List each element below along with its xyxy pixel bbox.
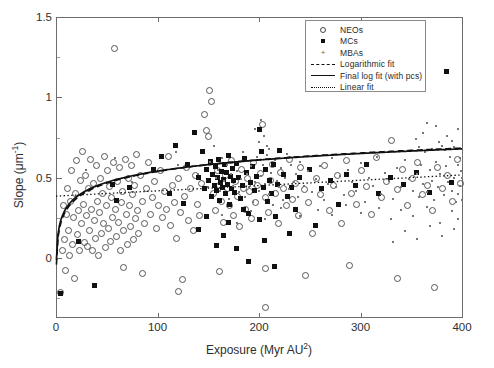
legend-label: MCs bbox=[340, 36, 358, 46]
chart-legend: NEOs MCs + MBAs Logarithmic fit Final lo… bbox=[305, 20, 426, 92]
dotted-line-icon bbox=[306, 82, 340, 93]
legend-item-final-log-fit: Final log fit (with pcs) bbox=[306, 70, 425, 81]
legend-item-linear-fit: Linear fit bbox=[306, 82, 425, 93]
legend-item-mbas: + MBAs bbox=[306, 47, 425, 58]
legend-item-logarithmic-fit: Logarithmic fit bbox=[306, 59, 425, 70]
linear-fit-curve bbox=[56, 175, 462, 196]
logarithmic-fit-curve bbox=[56, 148, 462, 265]
x-axis-label: Exposure (Myr AU2) bbox=[206, 341, 312, 357]
small-plus-icon: + bbox=[306, 47, 340, 58]
legend-item-mcs: MCs bbox=[306, 36, 425, 47]
legend-label: Logarithmic fit bbox=[340, 59, 394, 69]
y-axis-label: Slope (μm-1) bbox=[10, 95, 26, 255]
scatter-plot-figure: 010020030040000.511.5 NEOs MCs + MBAs Lo… bbox=[0, 0, 494, 368]
y-axis-label-exponent: -1 bbox=[10, 146, 20, 154]
legend-item-neos: NEOs bbox=[306, 24, 425, 35]
x-axis-label-base: Exposure (Myr AU bbox=[206, 343, 303, 357]
legend-label: Final log fit (with pcs) bbox=[340, 71, 422, 81]
dashed-line-icon bbox=[306, 59, 340, 70]
y-axis-label-base: Slope (μm bbox=[12, 153, 26, 208]
filled-square-icon bbox=[306, 36, 340, 47]
x-axis-label-tail: ) bbox=[308, 343, 312, 357]
final-log-fit-curve bbox=[56, 149, 462, 260]
solid-line-icon bbox=[306, 70, 340, 81]
legend-label: MBAs bbox=[340, 48, 363, 58]
y-axis-label-tail: ) bbox=[12, 142, 26, 146]
open-circle-icon bbox=[306, 24, 340, 35]
legend-label: NEOs bbox=[340, 25, 363, 35]
legend-label: Linear fit bbox=[340, 82, 374, 92]
